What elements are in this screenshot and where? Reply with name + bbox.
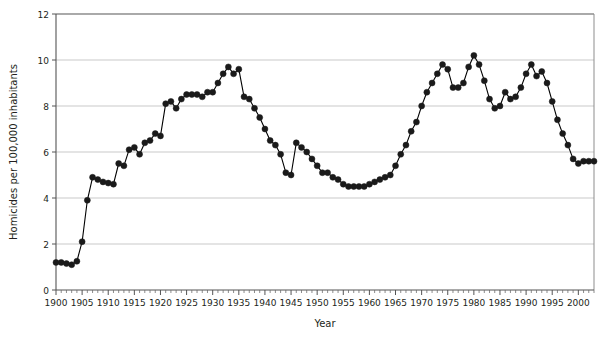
- data-point: [570, 156, 576, 162]
- data-point: [393, 163, 399, 169]
- data-point: [518, 85, 524, 91]
- data-point: [173, 105, 179, 111]
- data-point: [591, 158, 597, 164]
- x-tick-label-1995: 1995: [541, 298, 564, 308]
- chart-background: [0, 0, 606, 338]
- data-point: [178, 96, 184, 102]
- data-point: [157, 133, 163, 139]
- data-point: [147, 138, 153, 144]
- data-point: [236, 66, 242, 72]
- data-point: [481, 78, 487, 84]
- data-point: [267, 138, 273, 144]
- data-point: [121, 163, 127, 169]
- data-point: [419, 103, 425, 109]
- data-point: [565, 142, 571, 148]
- x-axis-major-ticks: [56, 290, 578, 295]
- x-axis-title: Year: [313, 318, 336, 329]
- data-point: [539, 69, 545, 75]
- data-point: [137, 151, 143, 157]
- x-tick-label-1990: 1990: [515, 298, 538, 308]
- x-tick-label-1975: 1975: [436, 298, 459, 308]
- data-point: [455, 85, 461, 91]
- x-axis-tick-labels: 1900190519101915192019251930193519401945…: [45, 298, 591, 308]
- data-point: [429, 80, 435, 86]
- data-point: [528, 62, 534, 68]
- data-point: [408, 128, 414, 134]
- data-point: [299, 144, 305, 150]
- data-point: [251, 105, 257, 111]
- x-tick-label-1980: 1980: [462, 298, 485, 308]
- x-tick-label-1910: 1910: [97, 298, 120, 308]
- x-tick-label-1945: 1945: [280, 298, 303, 308]
- data-point: [288, 172, 294, 178]
- x-tick-label-1955: 1955: [332, 298, 355, 308]
- x-tick-label-2000: 2000: [567, 298, 590, 308]
- data-point: [262, 126, 268, 132]
- data-point: [554, 117, 560, 123]
- data-point: [466, 64, 472, 70]
- data-point: [440, 62, 446, 68]
- data-point: [168, 98, 174, 104]
- data-point: [131, 144, 137, 150]
- data-point: [497, 103, 503, 109]
- data-point: [335, 177, 341, 183]
- data-point: [304, 149, 310, 155]
- x-tick-label-1935: 1935: [227, 298, 250, 308]
- data-point: [445, 66, 451, 72]
- data-point: [560, 131, 566, 137]
- x-tick-label-1950: 1950: [306, 298, 329, 308]
- data-point: [84, 197, 90, 203]
- x-tick-label-1930: 1930: [201, 298, 224, 308]
- data-point: [476, 62, 482, 68]
- data-point: [309, 156, 315, 162]
- y-tick-label-4: 4: [43, 194, 49, 204]
- y-tick-label-0: 0: [43, 286, 49, 296]
- data-point: [105, 180, 111, 186]
- y-tick-label-6: 6: [43, 148, 49, 158]
- data-point: [199, 94, 205, 100]
- chart-figure: 024681012 190019051910191519201925193019…: [0, 0, 606, 338]
- data-point: [460, 80, 466, 86]
- x-tick-label-1900: 1900: [45, 298, 68, 308]
- x-tick-label-1925: 1925: [175, 298, 198, 308]
- data-point: [325, 170, 331, 176]
- data-point: [257, 115, 263, 121]
- data-point: [413, 119, 419, 125]
- data-point: [293, 140, 299, 146]
- data-point: [225, 64, 231, 70]
- x-tick-label-1985: 1985: [489, 298, 512, 308]
- data-point: [220, 71, 226, 77]
- x-tick-label-1965: 1965: [384, 298, 407, 308]
- data-point: [523, 71, 529, 77]
- y-axis-title: Homicides per 100,000 inhabitants: [8, 64, 19, 240]
- data-point: [246, 96, 252, 102]
- data-point: [110, 181, 116, 187]
- x-tick-label-1920: 1920: [149, 298, 172, 308]
- data-point: [403, 142, 409, 148]
- data-point: [69, 262, 75, 268]
- x-tick-label-1915: 1915: [123, 298, 146, 308]
- x-tick-label-1970: 1970: [410, 298, 433, 308]
- data-point: [544, 80, 550, 86]
- data-point: [487, 96, 493, 102]
- data-point: [100, 179, 106, 185]
- data-point: [278, 151, 284, 157]
- data-point: [231, 71, 237, 77]
- x-tick-label-1940: 1940: [253, 298, 276, 308]
- y-tick-label-12: 12: [38, 10, 49, 20]
- y-tick-label-10: 10: [38, 56, 50, 66]
- data-point: [58, 259, 64, 265]
- y-tick-label-8: 8: [43, 102, 49, 112]
- data-point: [534, 73, 540, 79]
- data-point: [314, 163, 320, 169]
- data-point: [272, 142, 278, 148]
- data-point: [63, 261, 69, 267]
- data-point: [210, 89, 216, 95]
- data-point: [74, 258, 80, 264]
- y-tick-label-2: 2: [43, 240, 49, 250]
- data-point: [502, 89, 508, 95]
- homicide-rate-line-chart: 024681012 190019051910191519201925193019…: [0, 0, 606, 338]
- data-point: [513, 94, 519, 100]
- data-point: [471, 52, 477, 58]
- data-point: [549, 98, 555, 104]
